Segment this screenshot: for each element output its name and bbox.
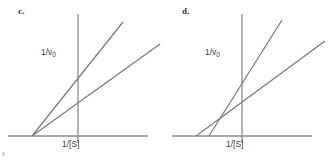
y-axis-label-text-c: 1/v: [41, 47, 52, 57]
panel-d: d. 1/v0 1/[S]: [164, 0, 328, 161]
y-axis-label-c: 1/v0: [41, 48, 56, 57]
x-axis-label-c: 1/[S]: [62, 140, 79, 149]
y-axis-label-sub-d: 0: [216, 51, 220, 58]
figure-root: c. 1/v0 1/[S] d. 1/v0 1/[S]: [0, 0, 329, 161]
corner-artifact: [2, 152, 5, 156]
x-axis-label-d: 1/[S]: [226, 140, 243, 149]
y-axis-label-d: 1/v0: [205, 48, 220, 57]
panel-c: c. 1/v0 1/[S]: [0, 0, 164, 161]
panel-c-plot: [0, 0, 164, 161]
y-axis-label-text-d: 1/v: [205, 47, 216, 57]
panel-d-plot: [164, 0, 328, 161]
y-axis-label-sub-c: 0: [52, 51, 56, 58]
